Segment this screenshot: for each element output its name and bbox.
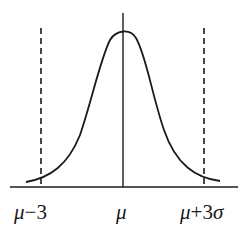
label-mu-plus-3-sigma: μ+3σ (179, 200, 225, 224)
normal-curve-diagram: μ−3 μ μ+3σ (0, 0, 246, 236)
label-mu-minus-3: μ−3 (13, 200, 47, 224)
label-mu: μ (115, 200, 127, 224)
